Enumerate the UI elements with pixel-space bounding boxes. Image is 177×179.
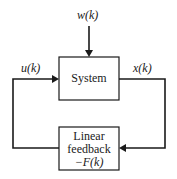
feedback-label-line3: −F(k): [59, 156, 119, 169]
disturbance-label: w(k): [77, 8, 98, 23]
input-label: u(k): [21, 61, 40, 76]
arrowhead-icon: [85, 50, 93, 57]
system-label: System: [59, 72, 119, 85]
arrowhead-icon: [119, 144, 126, 152]
state-label: x(k): [133, 61, 152, 76]
feedback-label: Linear feedback −F(k): [59, 130, 119, 169]
arrowhead-icon: [52, 75, 59, 83]
state-feedback-path: [119, 79, 165, 148]
input-path: [13, 79, 59, 148]
